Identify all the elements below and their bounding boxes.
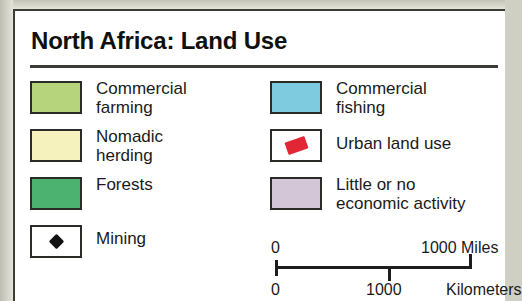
legend-item-nomadic-herding[interactable]: Nomadic herding [30,127,260,169]
scale-km-unit-label: Kilometers [446,281,522,299]
scale-tick-start [275,260,278,276]
map-legend-card: North Africa: Land Use Commercial farmin… [13,9,505,301]
scale-km-min-label: 0 [271,281,280,299]
legend-item-label: Little or no economic activity [336,175,465,213]
legend-column-left: Commercial farming Nomadic herding Fores… [30,79,260,271]
color-swatch [30,129,82,162]
scale-tick-middle [388,268,391,281]
scale-km-mid-label: 1000 [366,281,402,299]
legend-item-label: Commercial fishing [336,79,427,117]
diamond-icon [48,234,64,250]
color-swatch [270,177,322,210]
scale-bar-line [275,266,472,269]
legend-item-label: Commercial farming [96,79,187,117]
legend-item-label: Urban land use [336,127,451,154]
urban-patch-icon [284,136,308,155]
legend-item-urban-land-use[interactable]: Urban land use [270,127,505,169]
legend-item-commercial-fishing[interactable]: Commercial fishing [270,79,505,121]
color-swatch [30,81,82,114]
legend-item-little-or-no-economic-activity[interactable]: Little or no economic activity [270,175,505,217]
color-swatch [270,81,322,114]
mining-swatch [30,225,82,258]
color-swatch [30,177,82,210]
frame-bevel-left [0,0,13,301]
legend-item-label: Forests [96,175,153,195]
frame-bevel-top [0,0,505,9]
legend-item-label: Nomadic herding [96,127,163,165]
legend-column-right: Commercial fishing Urban land use Little… [270,79,505,223]
legend-item-commercial-farming[interactable]: Commercial farming [30,79,260,121]
urban-swatch [270,129,322,162]
scale-miles-min-label: 0 [271,239,280,257]
scale-bar: 0 1000 Miles 0 1000 Kilometers [271,239,503,301]
legend-item-label: Mining [96,223,146,249]
legend-item-forests[interactable]: Forests [30,175,260,217]
legend-item-mining[interactable]: Mining [30,223,260,265]
page-title: North Africa: Land Use [31,27,287,55]
scale-miles-max-label: 1000 Miles [421,239,498,257]
title-divider [30,65,498,68]
